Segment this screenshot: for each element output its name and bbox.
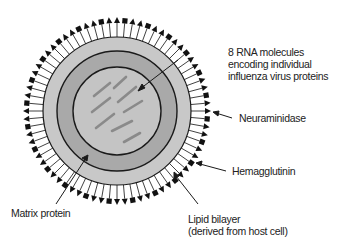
hemagglutinin-spike — [106, 17, 112, 37]
hemagglutinin-arrow — [200, 164, 226, 171]
hemagglutinin-spike — [187, 78, 206, 86]
hemagglutinin-spike — [114, 17, 120, 37]
lipid-arrow — [176, 176, 198, 204]
hemagglutinin-spike — [23, 108, 43, 114]
hemagglutinin-spike — [142, 181, 150, 200]
hemagglutinin-spike — [114, 185, 120, 205]
hemagglutinin-spike — [191, 100, 211, 106]
hemagglutinin-label: Hemagglutinin — [232, 165, 295, 177]
hemagglutinin-spike — [24, 93, 44, 99]
neuraminidase-spike — [24, 100, 43, 106]
hemagglutinin-spike — [154, 175, 164, 192]
virus-core — [73, 67, 161, 155]
lipid-label-line1: Lipid bilayer — [188, 213, 288, 225]
neuraminidase-spike — [190, 92, 209, 98]
lipid-label-line2: (derived from host cell) — [188, 225, 288, 237]
hemagglutinin-spike — [26, 85, 45, 92]
hemagglutinin-spike — [91, 20, 98, 39]
neuraminidase-arrowhead — [213, 111, 219, 116]
matrix-protein-label: Matrix protein — [11, 207, 70, 219]
hemagglutinin-spike — [91, 182, 98, 201]
rna-label-line1: 8 RNA molecules — [228, 46, 328, 58]
hemagglutinin-spike — [40, 153, 56, 164]
hemagglutinin-spike — [122, 185, 128, 205]
neuraminidase-spike — [159, 33, 172, 50]
neuraminidase-spike — [191, 116, 210, 122]
rna-label-line2: encoding individual — [228, 58, 328, 70]
hemagglutinin-spike — [70, 30, 80, 47]
hemagglutinin-spike — [159, 172, 170, 188]
hemagglutinin-spike — [178, 57, 194, 68]
neuraminidase-spike — [83, 181, 92, 200]
hemagglutinin-spike — [188, 130, 207, 137]
hemagglutinin-spike — [23, 116, 43, 122]
hemagglutinin-spike — [99, 184, 105, 204]
neuraminidase-spike — [130, 184, 136, 203]
rna-label-line3: influenza virus proteins — [228, 70, 328, 82]
hemagglutinin-spike — [181, 64, 198, 74]
neuraminidase-spike — [29, 77, 48, 86]
lipid-bilayer-label: Lipid bilayer (derived from host cell) — [188, 213, 288, 237]
hemagglutinin-spike — [190, 123, 210, 129]
neuraminidase-spike — [25, 124, 44, 130]
hemagglutinin-spike — [26, 130, 45, 137]
hemagglutinin-spike — [63, 34, 74, 50]
hemagglutinin-spike — [84, 23, 92, 42]
hemagglutinin-spike — [188, 85, 207, 92]
hemagglutinin-spike — [29, 136, 48, 144]
hemagglutinin-spike — [136, 20, 143, 39]
hemagglutinin-spike — [191, 108, 211, 114]
neuraminidase-spike — [187, 136, 206, 145]
neuraminidase-spike — [106, 185, 112, 204]
neuraminidase-label: Neuraminidase — [239, 112, 306, 124]
rna-label: 8 RNA molecules encoding individual infl… — [228, 46, 328, 82]
lipid-arrowhead — [174, 172, 179, 179]
hemagglutinin-spike — [70, 175, 80, 192]
hemagglutinin-spike — [136, 182, 143, 201]
hemagglutinin-spike — [129, 18, 135, 38]
hemagglutinin-spike — [36, 148, 53, 158]
hemagglutinin-spike — [154, 30, 164, 47]
hemagglutinin-arrowhead — [196, 161, 202, 166]
neuraminidase-spike — [178, 153, 195, 166]
neuraminidase-spike — [122, 18, 128, 37]
hemagglutinin-spike — [181, 148, 198, 158]
neuraminidase-spike — [98, 19, 104, 38]
neuraminidase-spike — [39, 55, 56, 68]
hemagglutinin-spike — [36, 64, 53, 74]
neuraminidase-spike — [142, 23, 151, 42]
